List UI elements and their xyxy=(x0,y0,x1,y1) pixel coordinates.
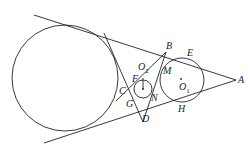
big-circle xyxy=(12,25,118,131)
geometry-diagram: A B E M O1 H O2 F C G N D xyxy=(0,0,251,157)
label-g: G xyxy=(126,99,133,109)
label-e: E xyxy=(187,48,193,58)
top-tangent-line xyxy=(34,15,236,80)
label-o2: O2 xyxy=(138,62,149,75)
o2-center-dot xyxy=(142,88,144,90)
o1-center-dot xyxy=(180,78,182,80)
diagram-svg xyxy=(0,0,251,157)
label-h: H xyxy=(178,104,185,114)
label-o1: O1 xyxy=(179,82,190,95)
label-b: B xyxy=(166,41,172,51)
bottom-tangent-line xyxy=(44,80,236,143)
label-n: N xyxy=(151,93,158,103)
label-m: M xyxy=(163,66,171,76)
label-o2-sub: 2 xyxy=(145,67,149,75)
label-c: C xyxy=(119,86,126,96)
label-f: F xyxy=(132,74,138,84)
label-o1-sub: 1 xyxy=(186,87,190,95)
label-d: D xyxy=(142,114,149,124)
label-a: A xyxy=(238,75,244,85)
